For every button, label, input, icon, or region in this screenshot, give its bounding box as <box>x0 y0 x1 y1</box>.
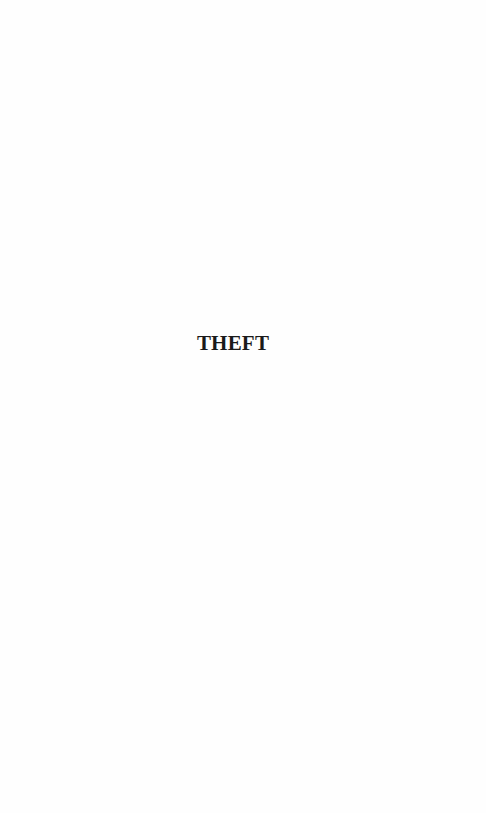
section-title: THEFT <box>0 331 466 355</box>
document-page: THEFT <box>0 0 486 813</box>
